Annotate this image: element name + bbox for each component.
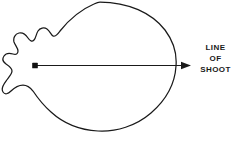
line-of-shoot-label: LINE OF SHOOT xyxy=(194,42,237,75)
label-line-3: SHOOT xyxy=(194,64,237,75)
arrow-head-icon xyxy=(181,62,191,69)
shot-pattern-outline xyxy=(2,2,176,131)
label-line-1: LINE xyxy=(194,42,237,53)
label-line-2: OF xyxy=(194,53,237,64)
origin-point-marker xyxy=(32,63,38,69)
